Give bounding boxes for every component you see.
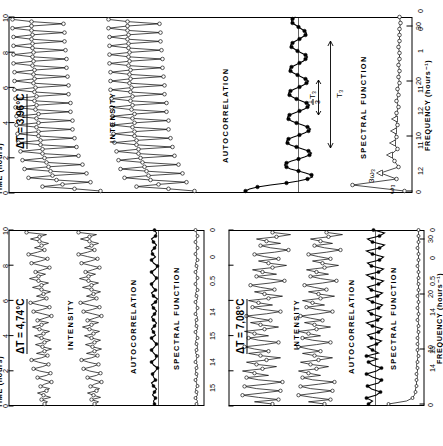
panel2-autocorrelation-label: AUTOCORRELATION	[346, 279, 355, 374]
panel3-freqtick-0: 0	[413, 190, 422, 194]
panel3-xtick-0: 0	[0, 191, 9, 195]
panel1-x-axis-title: TIME (hours)	[0, 356, 3, 408]
panel3-x-axis-title: TIME (hours)	[0, 143, 3, 195]
panel1-ytick-i2-14: 14	[207, 308, 216, 316]
panel2-freqtick-10: 10	[425, 345, 434, 353]
panel1-autocorrelation-label: AUTOCORRELATION	[128, 279, 137, 374]
panel1-xtick-4: 4	[0, 334, 9, 338]
panel3-canvas	[8, 17, 412, 193]
fraction-denominator: 3	[313, 99, 320, 105]
panel1-xtick-10: 10	[0, 227, 9, 235]
panel2-ytick-i1-14: 14	[427, 364, 436, 372]
panel3-freqtick-10: 10	[413, 132, 422, 140]
panel3-ytick-i1-12: 12	[415, 167, 424, 175]
panel3-xtick-2: 2	[0, 156, 9, 160]
t3-arrow	[327, 41, 332, 148]
third-t3-annotation: 1 3 T₃	[305, 91, 320, 105]
panel3-xtick-10: 10	[0, 14, 9, 22]
panel1-xtick-2: 2	[0, 369, 9, 373]
omega3-annotation: ω₃	[386, 184, 395, 194]
panel-dt-7p08: ΔT = 7,08°C INTENSITY AUTOCORRELATION SP…	[228, 230, 424, 406]
panel3-xtick-8: 8	[0, 51, 9, 55]
panel2-frequency-axis-title: FREQUENCY (hours⁻¹)	[434, 273, 443, 364]
panel3-condition-label: ΔT = 3,96°C	[14, 94, 27, 149]
panel2-freqtick-30: 30	[425, 235, 434, 243]
panel-dt-3p96: TIME (hours)	[8, 17, 412, 193]
panel-dt-4p74: TIME (hours)	[8, 230, 204, 406]
panel3-frequency-axis-title: FREQUENCY (hours⁻¹)	[422, 60, 431, 151]
panel2-intensity-label: INTENSITY	[291, 299, 300, 350]
panel3-ytick-sf-0: 0	[415, 9, 424, 13]
panel3-intensity-label: INTENSITY	[107, 92, 116, 143]
panel-column-left: TIME (hours)	[0, 223, 433, 446]
panel3-xtick-6: 6	[0, 86, 9, 90]
t3-annotation: T₃	[334, 90, 343, 98]
panel3-ytick-ac-1: 1	[415, 49, 424, 53]
panel1-xtick-8: 8	[0, 264, 9, 268]
panel1-intensity-label: INTENSITY	[65, 299, 74, 350]
panel2-ytick-ac-0: 0	[427, 256, 436, 260]
panel1-ytick-sf-0: 0	[207, 228, 216, 232]
panel3-spectral-label: SPECTRAL FUNCTION	[358, 55, 367, 159]
third-t3-symbol: T₃	[308, 91, 317, 99]
three-omega3-annotation: 3ω₃	[366, 169, 375, 183]
panel1-condition-label: ΔT = 4,74°C	[14, 299, 27, 354]
panel2-ytick-sf-0: 0	[427, 228, 436, 232]
panel1-ytick-i2-15: 15	[207, 332, 216, 340]
panel1-ytick-ac-05: 0.5	[207, 276, 216, 286]
panel3-freqtick-20: 20	[413, 77, 422, 85]
panel2-spectral-label: SPECTRAL FUNCTION	[388, 266, 397, 370]
panel1-xtick-0: 0	[0, 404, 9, 408]
panel3-freqtick-30: 30	[413, 22, 422, 30]
panel1-xtick-6: 6	[0, 299, 9, 303]
panel3-autocorrelation-label: AUTOCORRELATION	[220, 68, 229, 163]
panel1-ytick-ac-0: 0	[207, 255, 216, 259]
fraction-numerator: 1	[305, 99, 313, 105]
panel2-condition-label: ΔT = 7,08°C	[234, 299, 247, 354]
panel1-spectral-label: SPECTRAL FUNCTION	[171, 266, 180, 370]
panel2-freqtick-20: 20	[425, 290, 434, 298]
spectral-triangle-markers	[376, 116, 397, 176]
panel3-xtick-4: 4	[0, 121, 9, 125]
panel1-ytick-i1-15: 15	[207, 384, 216, 392]
panel1-ytick-i1-14: 14	[207, 358, 216, 366]
panel2-freqtick-0: 0	[425, 403, 434, 407]
third-fraction: 1 3	[305, 99, 320, 105]
panel-column-right: TIME (hours)	[0, 0, 433, 223]
